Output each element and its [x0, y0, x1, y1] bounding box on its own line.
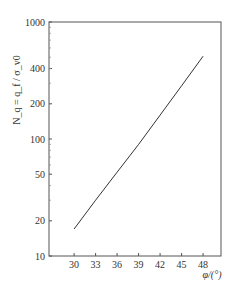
- y-axis-title: N_q = q_f / σ_v0: [11, 55, 22, 124]
- x-tick-label: 36: [112, 259, 122, 270]
- x-tick-label: 42: [155, 259, 165, 270]
- x-axis-title: φ/(°): [203, 269, 223, 281]
- y-axis: 1020501002004001000: [25, 17, 52, 262]
- y-tick-label: 20: [35, 215, 45, 226]
- y-tick-label: 200: [30, 98, 45, 109]
- y-tick-label: 100: [30, 134, 45, 145]
- y-tick-label: 1000: [25, 17, 45, 28]
- y-tick-label: 50: [35, 169, 45, 180]
- y-tick-label: 400: [30, 63, 45, 74]
- x-tick-label: 33: [91, 259, 101, 270]
- chart: 1020501002004001000 30333639424548 N_q =…: [0, 0, 237, 292]
- plot-frame: [49, 22, 221, 256]
- y-tick-label: 10: [35, 251, 45, 262]
- x-tick-label: 30: [69, 259, 79, 270]
- data-line: [74, 56, 203, 229]
- x-tick-label: 39: [134, 259, 144, 270]
- x-tick-label: 45: [177, 259, 187, 270]
